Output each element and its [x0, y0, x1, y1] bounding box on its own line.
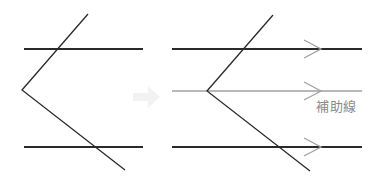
diagram-canvas	[0, 0, 384, 182]
left-figure	[22, 14, 143, 170]
auxiliary-line-label: 補助線	[316, 96, 357, 115]
transition-arrow-icon	[133, 86, 160, 108]
right-figure	[172, 15, 362, 171]
